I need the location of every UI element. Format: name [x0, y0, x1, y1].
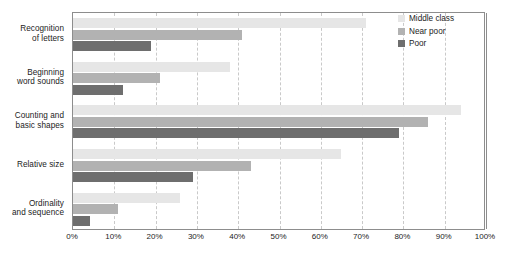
category-label-line: basic shapes — [0, 121, 64, 131]
x-tick-label: 80% — [394, 232, 410, 241]
bar — [73, 62, 230, 72]
gridline — [486, 13, 487, 229]
category-label-line: Beginning — [0, 68, 64, 78]
x-tick-label: 10% — [105, 232, 121, 241]
bar — [73, 73, 160, 83]
category-label-line: Ordinality — [0, 199, 64, 209]
category-label-line: Relative size — [0, 160, 64, 170]
x-tick-label: 50% — [270, 232, 286, 241]
category-label: Recognitionof letters — [0, 24, 64, 43]
category-label: Counting andbasic shapes — [0, 111, 64, 130]
chart-legend: Middle classNear poorPoor — [398, 14, 454, 48]
category-label: Ordinalityand sequence — [0, 199, 64, 218]
category-label-line: Recognition — [0, 24, 64, 34]
legend-label: Middle class — [409, 14, 454, 23]
bar — [73, 193, 180, 203]
x-tick-label: 0% — [66, 232, 78, 241]
bar — [73, 18, 366, 28]
legend-label: Near poor — [409, 27, 445, 36]
bar — [73, 105, 461, 115]
bar-group — [73, 144, 484, 188]
bar — [73, 85, 123, 95]
bar — [73, 149, 341, 159]
x-tick-label: 30% — [188, 232, 204, 241]
bar — [73, 216, 90, 226]
bar-chart: Recognitionof lettersBeginningword sound… — [0, 0, 505, 261]
x-tick-label: 60% — [312, 232, 328, 241]
bar-group — [73, 57, 484, 101]
bar — [73, 172, 193, 182]
legend-item[interactable]: Poor — [398, 39, 454, 48]
category-label-line: of letters — [0, 34, 64, 44]
bar — [73, 204, 118, 214]
bar-group — [73, 100, 484, 144]
x-tick-label: 70% — [353, 232, 369, 241]
x-axis: 0%10%20%30%40%50%60%70%80%90%100% — [72, 232, 485, 248]
bar-group — [73, 187, 484, 231]
category-label-line: and sequence — [0, 208, 64, 218]
category-label-line: word sounds — [0, 77, 64, 87]
bar — [73, 41, 151, 51]
bar — [73, 30, 242, 40]
legend-item[interactable]: Near poor — [398, 27, 454, 36]
legend-swatch-icon — [398, 28, 405, 35]
category-axis-labels: Recognitionof lettersBeginningword sound… — [0, 12, 68, 230]
legend-swatch-icon — [398, 15, 405, 22]
x-tick-label: 40% — [229, 232, 245, 241]
x-tick-label: 20% — [147, 232, 163, 241]
legend-item[interactable]: Middle class — [398, 14, 454, 23]
bar — [73, 117, 428, 127]
legend-label: Poor — [409, 39, 426, 48]
bar — [73, 161, 251, 171]
bar — [73, 128, 399, 138]
category-label: Relative size — [0, 160, 64, 170]
category-label: Beginningword sounds — [0, 68, 64, 87]
x-tick-label: 90% — [436, 232, 452, 241]
x-tick-label: 100% — [475, 232, 495, 241]
category-label-line: Counting and — [0, 111, 64, 121]
legend-swatch-icon — [398, 40, 405, 47]
